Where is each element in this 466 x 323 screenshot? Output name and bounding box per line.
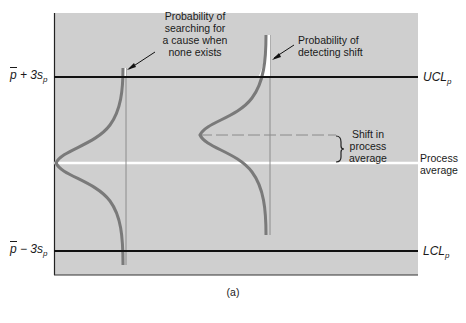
lcl-label: LCLp [423, 244, 449, 260]
detecting-shift-annotation: Probability of detecting shift [298, 34, 378, 58]
lower-limit-formula: p − 3sp [10, 242, 48, 258]
upper-limit-formula: p + 3sp [10, 68, 48, 84]
process-average-label: Process average [420, 152, 466, 176]
figure-caption: (a) [218, 286, 248, 298]
ucl-label: UCLp [423, 70, 451, 86]
shift-annotation: Shift in process average [345, 128, 391, 164]
type1-error-annotation: Probability of searching for a cause whe… [150, 10, 240, 58]
